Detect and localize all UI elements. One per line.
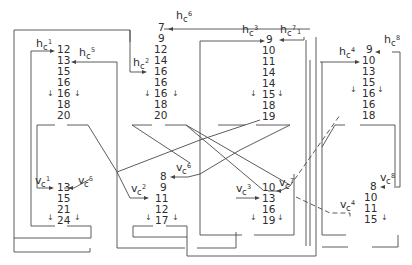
arrow-left-icon [170, 175, 175, 179]
svg-text:h: h [384, 33, 391, 46]
arrow-right-icon [255, 196, 260, 200]
down-arrow-icon: ↓ [172, 213, 179, 222]
down-arrow-icon: ↓ [381, 213, 388, 222]
svg-text:6: 6 [188, 10, 192, 18]
value: 20 [154, 109, 167, 121]
connection-diagram: hc1 12 13 15 16 16 18 20 ↓ ↓ hc5 vc1 vc5… [0, 0, 412, 265]
svg-text:1: 1 [46, 175, 50, 183]
label-vc8: vc8 [380, 171, 395, 186]
label-hc1: hc1 [36, 37, 52, 52]
label-hc8: hc8 [384, 33, 400, 48]
svg-text:1: 1 [297, 28, 301, 36]
svg-text:5: 5 [89, 175, 93, 183]
column-2: hc6 hc2 7 9 12 14 16 16 16 18 20 ↓ ↓ vc6… [131, 9, 192, 226]
arrow-left-icon [375, 50, 380, 54]
down-arrow-icon: ↓ [172, 89, 179, 98]
arrow-left-icon [168, 27, 173, 31]
down-arrow-icon: ↓ [277, 89, 284, 98]
svg-text:4: 4 [351, 46, 355, 54]
arrow-left-icon [279, 38, 284, 42]
svg-text:3: 3 [247, 183, 251, 191]
svg-text:h: h [36, 37, 43, 50]
down-arrow-icon: ↓ [145, 213, 152, 222]
label-hc5: hc5 [79, 46, 95, 61]
label-hc7: hc71 [280, 23, 301, 38]
down-arrow-icon: ↓ [74, 213, 81, 222]
svg-text:h: h [280, 23, 287, 36]
svg-text:2: 2 [142, 183, 146, 191]
svg-text:h: h [176, 9, 183, 22]
arrow-right-icon [50, 49, 55, 53]
value: 19 [262, 110, 275, 122]
arrow-left-icon [276, 189, 281, 193]
arrow-right-icon [49, 186, 54, 190]
label-hc3: hc3 [242, 23, 258, 38]
value: 15 [364, 213, 377, 225]
svg-text:5: 5 [91, 46, 95, 54]
value: 18 [362, 109, 375, 121]
label-vc6: vc6 [176, 161, 191, 176]
svg-text:h: h [79, 46, 86, 59]
down-arrow-icon: ↓ [250, 213, 257, 222]
arrow-left-icon [380, 185, 385, 189]
column-1: hc1 12 13 15 16 16 18 20 ↓ ↓ hc5 vc1 vc5… [35, 37, 95, 226]
svg-text:h: h [339, 45, 346, 58]
svg-text:8: 8 [396, 34, 400, 42]
svg-text:3: 3 [254, 24, 258, 32]
arrow-right-icon [355, 60, 360, 64]
down-arrow-icon: ↓ [350, 85, 357, 94]
down-arrow-icon: ↓ [47, 213, 54, 222]
label-vc1: vc1 [35, 174, 50, 189]
svg-text:6: 6 [187, 162, 191, 170]
label-hc6: hc6 [176, 9, 192, 24]
value: 17 [155, 214, 168, 226]
svg-text:2: 2 [145, 57, 149, 65]
label-vc7: vc7 [279, 176, 294, 191]
arrow-left-icon [71, 60, 76, 64]
connector-lines [14, 29, 400, 256]
svg-text:7: 7 [292, 24, 296, 32]
svg-text:8: 8 [391, 172, 395, 180]
label-vc3: vc3 [236, 182, 251, 197]
down-arrow-icon: ↓ [144, 89, 151, 98]
arrowheads [49, 27, 385, 200]
value: 24 [57, 214, 71, 226]
down-arrow-icon: ↓ [47, 89, 54, 98]
label-hc2: hc2 [133, 56, 149, 71]
svg-text:7: 7 [290, 177, 294, 185]
label-vc2: vc2 [131, 182, 146, 197]
diagram-canvas: hc1 12 13 15 16 16 18 20 ↓ ↓ hc5 vc1 vc5… [0, 0, 412, 265]
label-vc5: vc5 [78, 174, 93, 189]
value: 19 [262, 214, 275, 226]
down-arrow-icon: ↓ [377, 85, 384, 94]
arrow-right-icon [144, 196, 149, 200]
label-hc4: hc4 [339, 45, 355, 60]
svg-text:1: 1 [48, 38, 52, 46]
value: 20 [57, 109, 70, 121]
svg-text:h: h [133, 56, 140, 69]
svg-text:4: 4 [351, 199, 355, 207]
down-arrow-icon: ↓ [74, 89, 81, 98]
svg-text:h: h [242, 23, 249, 36]
down-arrow-icon: ↓ [277, 213, 284, 222]
arrow-right-icon [260, 39, 265, 43]
label-vc4: vc4 [340, 198, 355, 213]
down-arrow-icon: ↓ [250, 89, 257, 98]
